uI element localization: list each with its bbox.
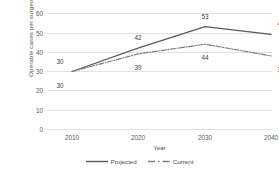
x-tick-label: 2030 xyxy=(198,134,212,141)
data-label: 30 xyxy=(56,81,63,88)
legend-label: Projected xyxy=(111,158,137,165)
data-label: 44 xyxy=(201,54,208,61)
y-tick-label: 30 xyxy=(36,68,43,75)
data-label: 42 xyxy=(134,34,141,41)
series-line-current xyxy=(72,44,271,71)
data-label: 53 xyxy=(201,12,208,19)
y-tick-label: 40 xyxy=(36,48,43,55)
series-lines xyxy=(47,13,272,130)
x-axis-title: Year xyxy=(47,144,272,151)
chart-legend: Projected Current xyxy=(0,158,279,165)
legend-label: Current xyxy=(173,158,194,165)
y-tick-label: 50 xyxy=(36,29,43,36)
legend-item-projected[interactable]: Projected xyxy=(86,158,137,165)
legend-item-current[interactable]: Current xyxy=(148,158,194,165)
y-axis-title: Operable cases per surgeon xyxy=(27,0,34,95)
y-tick-label: 20 xyxy=(36,87,43,94)
x-tick-label: 2010 xyxy=(65,134,79,141)
data-label: 30 xyxy=(56,57,63,64)
data-label: 39 xyxy=(134,63,141,70)
data-label: 49 xyxy=(277,20,279,27)
y-tick-label: 60 xyxy=(36,10,43,17)
x-tick-label: 2020 xyxy=(131,134,145,141)
x-tick-label: 2040 xyxy=(264,134,278,141)
legend-swatch-solid-icon xyxy=(86,158,108,165)
line-chart: 60 50 40 30 20 10 0 Operable cases per s… xyxy=(0,0,279,175)
plot-area: 60 50 40 30 20 10 0 Operable cases per s… xyxy=(47,13,272,130)
legend-swatch-dashdot-icon xyxy=(148,158,170,165)
data-label: 38 xyxy=(277,65,279,72)
y-tick-label: 0 xyxy=(39,126,43,133)
y-tick-label: 10 xyxy=(36,106,43,113)
